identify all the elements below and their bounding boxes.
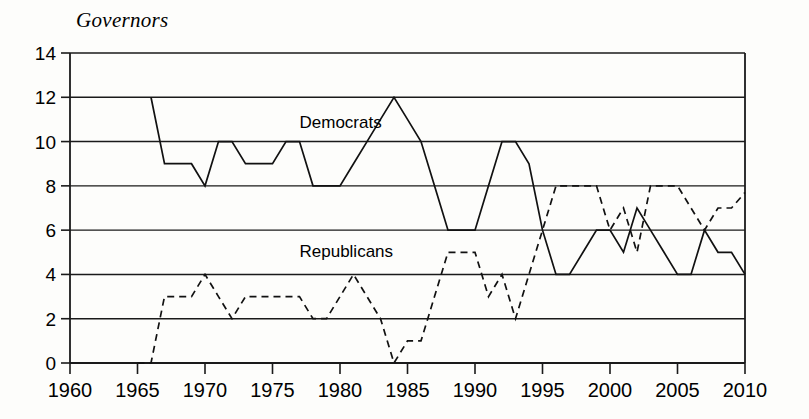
y-tick-label-12: 12 xyxy=(35,87,56,108)
x-tick-label-1980: 1980 xyxy=(318,379,363,401)
y-tick-label-4: 4 xyxy=(45,264,56,285)
y-tick-label-14: 14 xyxy=(35,43,57,64)
x-axis-labels: 1960196519701975198019851990199520002005… xyxy=(48,379,768,401)
x-tick-label-1960: 1960 xyxy=(48,379,93,401)
y-tick-label-2: 2 xyxy=(45,309,56,330)
x-tick-label-1985: 1985 xyxy=(385,379,430,401)
y-tick-label-8: 8 xyxy=(45,176,56,197)
series-annotations: DemocratsRepublicans xyxy=(300,113,394,260)
x-tick-label-1990: 1990 xyxy=(453,379,498,401)
gridlines xyxy=(70,53,745,363)
annotation-republicans: Republicans xyxy=(300,242,394,261)
y-tick-label-0: 0 xyxy=(45,353,56,374)
x-tick-label-2005: 2005 xyxy=(655,379,700,401)
x-tick-label-1975: 1975 xyxy=(250,379,295,401)
x-tick-label-2000: 2000 xyxy=(588,379,633,401)
annotation-democrats: Democrats xyxy=(300,113,382,132)
x-tick-label-1965: 1965 xyxy=(115,379,160,401)
axis-lines xyxy=(70,53,745,363)
x-tick-label-1970: 1970 xyxy=(183,379,228,401)
chart-page: Governors 14121086420 196019651970197519… xyxy=(0,0,809,419)
x-tick-label-2010: 2010 xyxy=(723,379,768,401)
y-axis-labels: 14121086420 xyxy=(35,43,57,374)
x-tick-label-1995: 1995 xyxy=(520,379,565,401)
y-tick-label-6: 6 xyxy=(45,220,56,241)
tick-marks xyxy=(61,53,745,374)
y-tick-label-10: 10 xyxy=(35,132,56,153)
governors-line-chart: 14121086420 1960196519701975198019851990… xyxy=(0,0,809,419)
